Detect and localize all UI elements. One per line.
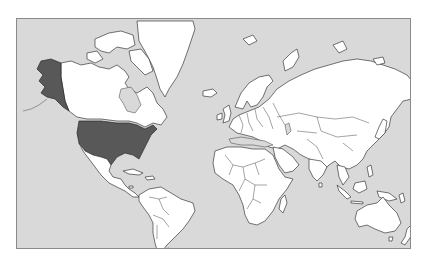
- region-arctic-islands: [95, 31, 135, 53]
- region-sri-lanka: [319, 183, 322, 187]
- region-new-guinea: [377, 191, 397, 201]
- region-hawaii: [129, 186, 133, 188]
- region-pacific-islands: [399, 193, 405, 203]
- region-novaya-zemlya: [283, 49, 299, 71]
- world-map: [16, 18, 411, 249]
- region-sumatra: [337, 185, 351, 199]
- region-tasmania: [389, 237, 393, 241]
- region-south-america: [139, 187, 195, 249]
- region-falklands: [165, 248, 169, 249]
- region-ireland: [217, 113, 222, 120]
- region-cuba: [123, 169, 143, 175]
- region-java: [351, 201, 363, 204]
- region-iceland: [203, 89, 217, 97]
- region-philippines: [367, 165, 373, 177]
- region-great-britain: [223, 105, 231, 123]
- region-hispaniola: [145, 176, 155, 180]
- region-severnaya-zemlya: [333, 41, 347, 53]
- region-arctic-island-small: [87, 51, 103, 63]
- world-map-svg: [17, 19, 411, 249]
- region-new-zealand: [401, 225, 411, 245]
- alaska-aleutian-islands: [23, 99, 47, 111]
- region-svalbard: [243, 35, 257, 45]
- region-borneo: [353, 181, 367, 193]
